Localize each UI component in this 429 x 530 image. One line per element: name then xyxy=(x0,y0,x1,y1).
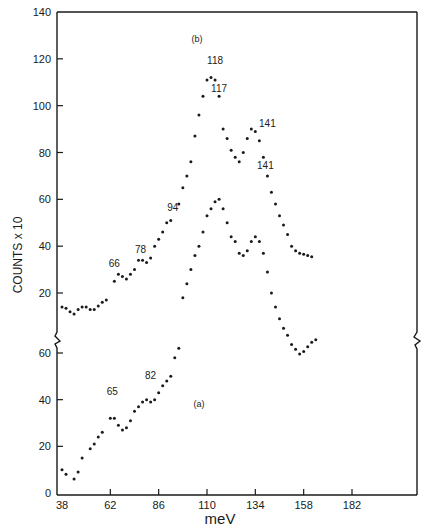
y-tick-label: 40 xyxy=(39,394,51,406)
y-tick-label: 60 xyxy=(39,193,51,205)
data-point xyxy=(165,380,168,383)
data-point xyxy=(105,299,108,302)
data-point xyxy=(169,219,172,222)
data-point xyxy=(113,280,116,283)
data-point xyxy=(193,254,196,257)
x-axis-label: meV xyxy=(205,510,236,527)
data-point xyxy=(65,473,68,476)
data-point xyxy=(234,156,237,159)
x-tick-label: 86 xyxy=(153,499,165,511)
data-point xyxy=(141,259,144,262)
y-tick-label: 20 xyxy=(39,287,51,299)
chart-svg: 204060801001201400204060 386286110134158… xyxy=(0,0,429,530)
data-point xyxy=(254,235,257,238)
y-tick-label: 20 xyxy=(39,440,51,452)
data-point xyxy=(185,282,188,285)
x-axis-ticks: 386286110134158182 xyxy=(56,489,361,511)
x-tick-label: 158 xyxy=(294,499,312,511)
data-point xyxy=(149,256,152,259)
x-tick-label: 134 xyxy=(246,499,264,511)
data-point xyxy=(274,306,277,309)
data-point xyxy=(161,231,164,234)
data-point xyxy=(262,252,265,255)
data-point xyxy=(306,345,309,348)
y-tick-label: 40 xyxy=(39,240,51,252)
data-point xyxy=(314,338,317,341)
data-point xyxy=(189,268,192,271)
data-point xyxy=(306,254,309,257)
data-point xyxy=(77,308,80,311)
data-point xyxy=(133,410,136,413)
right-frame-line xyxy=(414,12,420,495)
data-point xyxy=(93,443,96,446)
data-point xyxy=(137,259,140,262)
data-point xyxy=(278,214,281,217)
y-tick-label: 0 xyxy=(45,487,51,499)
data-point xyxy=(153,245,156,248)
peak-label: 82 xyxy=(145,370,157,381)
panel-label: (b) xyxy=(191,34,202,44)
data-point xyxy=(250,240,253,243)
data-point xyxy=(77,471,80,474)
data-point xyxy=(290,343,293,346)
data-point xyxy=(226,221,229,224)
data-point xyxy=(234,240,237,243)
data-point xyxy=(270,292,273,295)
data-point xyxy=(153,398,156,401)
data-point xyxy=(222,207,225,210)
peak-label: 141 xyxy=(257,160,274,171)
x-tick-label: 38 xyxy=(56,499,68,511)
peak-label: 141 xyxy=(259,118,276,129)
data-point xyxy=(185,174,188,177)
peak-label: 65 xyxy=(107,386,119,397)
data-point xyxy=(282,327,285,330)
data-point xyxy=(169,375,172,378)
data-point xyxy=(85,306,88,309)
data-point xyxy=(157,391,160,394)
data-point xyxy=(197,245,200,248)
data-point xyxy=(266,270,269,273)
data-point xyxy=(218,198,221,201)
data-point xyxy=(226,137,229,140)
y-axis-line xyxy=(55,12,60,495)
y-tick-label: 60 xyxy=(39,347,51,359)
data-point xyxy=(294,249,297,252)
data-point xyxy=(161,384,164,387)
data-point xyxy=(290,245,293,248)
y-tick-label: 120 xyxy=(33,53,51,65)
data-point xyxy=(246,137,249,140)
data-point xyxy=(238,252,241,255)
data-point xyxy=(109,417,112,420)
data-point xyxy=(125,277,128,280)
data-point xyxy=(101,301,104,304)
peak-label: 78 xyxy=(135,244,147,255)
data-point xyxy=(250,128,253,131)
data-point xyxy=(230,149,233,152)
data-point xyxy=(149,401,152,404)
data-point xyxy=(61,468,64,471)
data-point xyxy=(310,341,313,344)
data-point xyxy=(282,224,285,227)
data-point xyxy=(157,238,160,241)
y-tick-label: 100 xyxy=(33,100,51,112)
data-point xyxy=(298,352,301,355)
data-point xyxy=(294,348,297,351)
data-point xyxy=(193,135,196,138)
data-point xyxy=(177,347,180,350)
data-point xyxy=(274,203,277,206)
data-point xyxy=(145,261,148,264)
data-point xyxy=(89,447,92,450)
peak-label: 94 xyxy=(167,202,179,213)
data-point xyxy=(113,417,116,420)
peak-label: 117 xyxy=(211,83,227,94)
data-point xyxy=(206,78,209,81)
data-point xyxy=(302,253,305,256)
data-point xyxy=(197,114,200,117)
data-point xyxy=(278,317,281,320)
data-point xyxy=(214,78,217,81)
data-point xyxy=(302,350,305,353)
data-point xyxy=(125,426,128,429)
data-point xyxy=(145,398,148,401)
data-point xyxy=(254,130,257,133)
data-point xyxy=(97,436,100,439)
